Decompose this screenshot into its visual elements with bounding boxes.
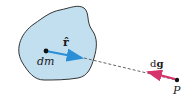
mass-element-dot xyxy=(44,49,49,54)
point-p-label: P xyxy=(173,84,180,97)
mass-body-shape xyxy=(19,6,97,80)
field-vector-label-bold: g xyxy=(156,58,163,69)
gravitational-field-diagram: dm r̂ dg P xyxy=(0,0,193,98)
field-vector-arrow xyxy=(148,72,175,79)
unit-vector-label: r̂ xyxy=(63,36,69,49)
field-vector-label: dg xyxy=(150,58,163,69)
diagram-canvas xyxy=(0,0,193,98)
point-p-dot xyxy=(175,78,179,82)
mass-element-label: dm xyxy=(37,55,54,68)
